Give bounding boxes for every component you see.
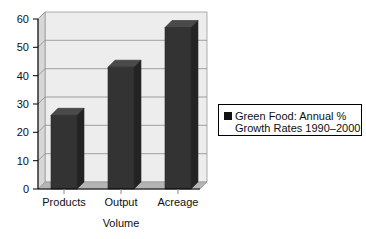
legend[interactable]: Green Food: Annual % Growth Rates 1990–2… — [219, 105, 362, 136]
x-axis — [38, 189, 200, 194]
y-tick-label-50: 50 — [17, 41, 29, 53]
bar-acreage-front — [165, 28, 191, 190]
chart-container: 0 10 20 30 40 50 60 — [0, 0, 366, 239]
bar-products-side — [77, 108, 84, 189]
y-tick-label-10: 10 — [17, 155, 29, 167]
bar-products-front — [51, 115, 77, 189]
x-axis-title: Volume — [103, 217, 140, 229]
bar-output-front — [108, 67, 134, 189]
y-tick-label-30: 30 — [17, 98, 29, 110]
x-tick-labels: Products Output Acreage — [42, 196, 198, 208]
y-axis — [33, 19, 38, 189]
y-tick-labels: 0 10 20 30 40 50 60 — [17, 13, 29, 195]
x-tick-label-products: Products — [42, 196, 86, 208]
x-tick-label-acreage: Acreage — [158, 196, 199, 208]
bar-output[interactable] — [108, 60, 141, 189]
legend-marker-square-icon — [224, 112, 232, 120]
bar-acreage[interactable] — [165, 21, 198, 190]
bar-acreage-side — [191, 21, 198, 190]
x-tick-label-output: Output — [104, 196, 137, 208]
y-tick-label-0: 0 — [23, 183, 29, 195]
bar-output-side — [134, 60, 141, 189]
bar-chart: 0 10 20 30 40 50 60 — [0, 0, 366, 239]
y-tick-label-60: 60 — [17, 13, 29, 25]
y-tick-label-20: 20 — [17, 126, 29, 138]
legend-label-line2: Growth Rates 1990–2000 — [235, 122, 360, 134]
legend-label-line1: Green Food: Annual % — [235, 110, 347, 122]
bar-products[interactable] — [51, 108, 84, 189]
y-tick-label-40: 40 — [17, 70, 29, 82]
